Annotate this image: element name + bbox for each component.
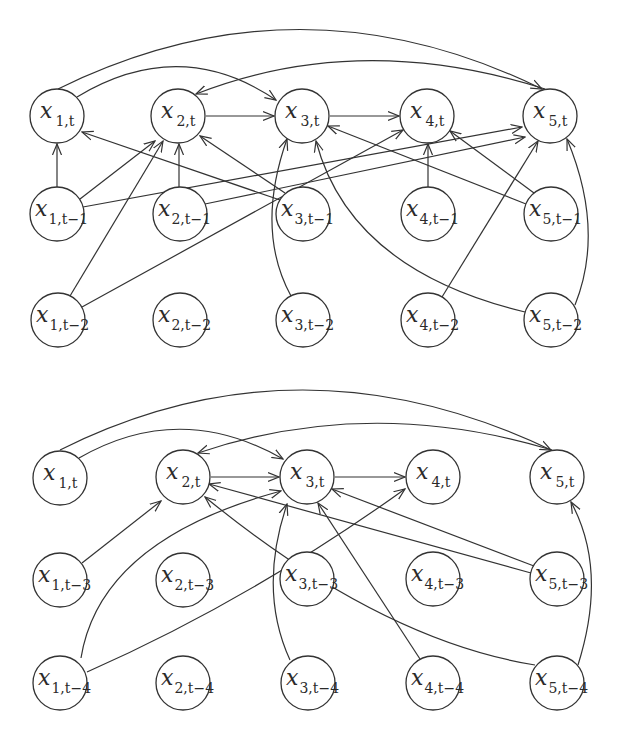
edge-x1t-to-x5t: [58, 30, 542, 90]
node-x2t: x2,t: [151, 89, 205, 143]
node-x4t1: x4,t−1: [401, 187, 459, 241]
edge-x5t4-to-x2t: [205, 497, 535, 665]
node-x1t4: x1,t−4: [33, 656, 91, 710]
node-x4t2: x4,t−2: [401, 293, 459, 347]
node-x4t: x4,t: [400, 89, 454, 143]
node-x2t4: x2,t−4: [156, 656, 214, 710]
edge-x5t3-to-x2t: [209, 484, 531, 573]
node-x1t: x1,t: [30, 89, 84, 143]
node-layer: x1,tx2,tx3,tx4,tx5,tx1,t−3x2,t−3x3,t−3x4…: [33, 450, 588, 710]
node-x3t: x3,t: [275, 89, 329, 143]
node-x4t4: x4,t−4: [406, 656, 464, 710]
edge-x1t4-to-x4t: [87, 489, 405, 672]
edge-x2t1-to-x5t: [205, 137, 525, 204]
edge-x1t3-to-x2t: [82, 501, 161, 563]
node-x3t2: x3,t−2: [276, 293, 334, 347]
edge-x3t1-to-x2t: [200, 136, 285, 193]
node-x3t3: x3,t−3: [280, 552, 338, 606]
node-x5t1: x5,t−1: [524, 187, 582, 241]
edge-x5t-to-x2t: [196, 61, 545, 94]
causal-graph-canvas: x1,tx2,tx3,tx4,tx5,tx1,t−1x2,t−1x3,t−1x4…: [0, 0, 621, 736]
node-x5t: x5,t: [523, 89, 577, 143]
edge-x5t1-to-x4t: [450, 131, 534, 193]
edge-layer: [57, 30, 588, 313]
node-x5t2: x5,t−2: [524, 293, 582, 347]
graph-lags-1-2: x1,tx2,tx3,tx4,tx5,tx1,t−1x2,t−1x3,t−1x4…: [30, 30, 588, 348]
node-x1t: x1,t: [33, 451, 87, 505]
node-x3t: x3,t: [280, 450, 334, 504]
node-x1t2: x1,t−2: [31, 293, 89, 347]
node-x4t: x4,t: [406, 450, 460, 504]
node-x1t3: x1,t−3: [33, 553, 91, 607]
node-x3t1: x3,t−1: [276, 187, 334, 241]
edge-x1t-to-x5t: [60, 390, 551, 450]
node-x2t2: x2,t−2: [153, 293, 211, 347]
edge-x1t1-to-x2t: [80, 141, 155, 199]
node-x1t1: x1,t−1: [30, 187, 88, 241]
node-x2t: x2,t: [156, 450, 210, 504]
node-x5t4: x5,t−4: [530, 656, 588, 710]
node-x2t1: x2,t−1: [153, 187, 211, 241]
node-layer: x1,tx2,tx3,tx4,tx5,tx1,t−1x2,t−1x3,t−1x4…: [30, 89, 582, 347]
node-x3t4: x3,t−4: [281, 656, 339, 710]
edge-layer: [60, 390, 591, 672]
node-x5t3: x5,t−3: [530, 552, 588, 606]
node-x2t3: x2,t−3: [156, 553, 214, 607]
node-x4t3: x4,t−3: [406, 552, 464, 606]
graph-lags-3-4: x1,tx2,tx3,tx4,tx5,tx1,t−3x2,t−3x3,t−3x4…: [33, 390, 591, 710]
node-x5t: x5,t: [530, 450, 584, 504]
